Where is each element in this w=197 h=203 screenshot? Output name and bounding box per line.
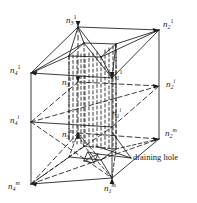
node-label-n3-1: n31 — [66, 14, 77, 26]
node-label-n3-i: n3i — [62, 76, 71, 88]
cuboid-line-art — [0, 0, 197, 203]
node-label-n4-1: n41 — [10, 64, 21, 76]
middle-level-diagonals — [31, 86, 159, 184]
node-label-n1-m: n1m — [104, 182, 116, 194]
node-label-n2-i: n2i — [166, 78, 175, 90]
node-label-n2-1: n21 — [163, 18, 174, 30]
node-label-n4-i: n4i — [10, 114, 19, 126]
figure-canvas: n31 n21 n41 n11 n3i n2i n4i n1i n3m n2m … — [0, 0, 197, 203]
top-funnel — [31, 27, 159, 78]
node-label-n4-m: n4m — [8, 180, 20, 192]
outer-top-face — [31, 27, 159, 78]
draining-hole-annotation: draining hole — [133, 153, 178, 162]
draining-hole-column — [69, 43, 116, 149]
node-label-n1-i: n1i — [112, 107, 121, 119]
middle-level-plane — [31, 82, 159, 127]
node-label-n1-1: n11 — [112, 69, 123, 81]
node-label-n3-m: n3m — [62, 128, 74, 140]
node-label-n2-m: n2m — [165, 127, 177, 139]
